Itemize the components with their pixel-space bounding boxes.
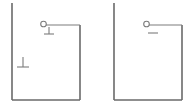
left-vessel-group: [12, 3, 80, 100]
figure-root: Two open vessel diagrams with electrode …: [0, 0, 195, 112]
vessel-diagram-svg: [0, 0, 195, 112]
right-vessel-node-circle[interactable]: [144, 21, 150, 27]
right-vessel-group: [114, 3, 182, 100]
left-vessel-node-circle[interactable]: [41, 21, 47, 27]
